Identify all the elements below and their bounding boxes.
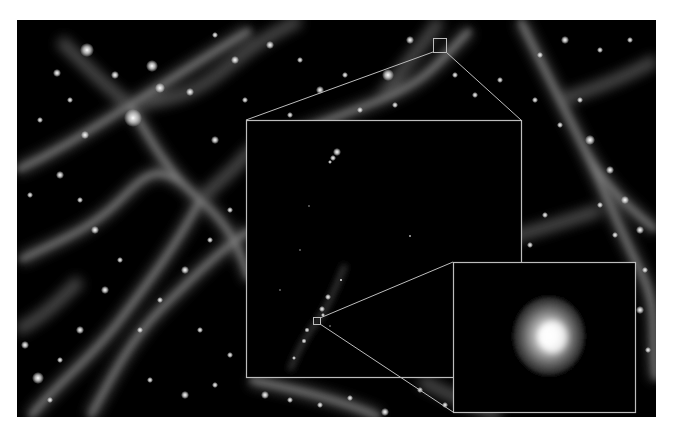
figure	[0, 0, 673, 432]
inset-2	[454, 263, 636, 413]
dark-matter-halo	[509, 292, 589, 380]
cosmic-web-figure	[0, 0, 673, 432]
